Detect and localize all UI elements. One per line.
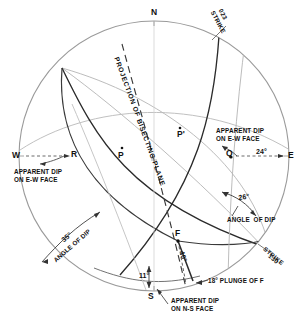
label-point-r: R [71,150,77,160]
angle-of-dip-right-label: ANGLE OF DIP [227,216,275,223]
apparent-dip-ew-left-line1: APPARENT DIP [14,168,62,175]
point-p-dot [121,147,124,150]
stereonet-figure: N S E W P P' Q R F APPARENT DIP ON E-W F… [0,0,306,317]
angle-apparent-dip-ew-right: 24° [256,148,267,156]
label-west: W [12,151,20,161]
label-south: S [148,292,154,302]
apparent-dip-ew-left-line2: ON E-W FACE [14,176,58,183]
label-east: E [288,151,294,161]
label-north: N [151,8,157,18]
label-point-f: F [175,229,180,239]
point-f-dot [176,239,179,242]
apparent-dip-ew-right-line2: ON E-W FACE [216,135,260,142]
angle-of-dip-right-value: 26° [238,192,250,201]
plunge-of-f-label: 18° PLUNGE OF F [208,277,264,284]
apparent-dip-ew-right-line1: APPARENT DIP [216,127,264,134]
apparent-dip-ns-line1: APPARENT DIP [171,297,219,304]
apparent-dip-ns-line2: ON N-S FACE [171,305,213,312]
label-point-p: P [118,151,124,161]
angle-apparent-dip-ns: 11° [139,272,150,280]
label-point-p-prime: P' [177,130,185,140]
label-point-q: Q [226,149,233,159]
